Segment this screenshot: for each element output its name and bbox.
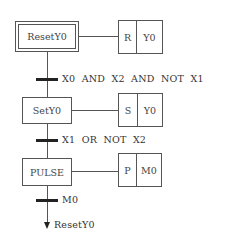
jump-arrow-icon — [44, 222, 50, 229]
action-variable: Y0 — [138, 94, 162, 126]
action-link — [79, 36, 118, 37]
step-resety0[interactable]: ResetY0 — [15, 21, 79, 52]
transition-bar[interactable] — [36, 199, 58, 202]
jump-target-label[interactable]: ResetY0 — [54, 219, 95, 230]
step-label: SetY0 — [33, 105, 61, 116]
action-qualifier: P — [119, 154, 137, 186]
transition-condition: X1 OR NOT X2 — [62, 134, 146, 145]
transition-condition: X0 AND X2 AND NOT X1 — [62, 73, 204, 84]
transition-bar[interactable] — [36, 78, 58, 81]
step-label: ResetY0 — [27, 31, 66, 42]
step-pulse[interactable]: PULSE — [22, 158, 72, 186]
action-block-sety0[interactable]: S Y0 — [118, 93, 163, 127]
action-qualifier: S — [119, 94, 138, 126]
action-variable: Y0 — [137, 21, 162, 53]
action-variable: M0 — [137, 154, 161, 186]
transition-condition: M0 — [62, 194, 78, 205]
link-line — [47, 185, 48, 223]
action-block-resety0[interactable]: R Y0 — [118, 20, 163, 54]
action-link — [72, 110, 118, 111]
action-block-pulse[interactable]: P M0 — [118, 153, 162, 187]
step-sety0[interactable]: SetY0 — [22, 97, 72, 124]
action-qualifier: R — [119, 21, 137, 53]
link-line — [47, 51, 48, 97]
transition-bar[interactable] — [36, 139, 58, 142]
step-label: PULSE — [30, 167, 64, 178]
action-link — [72, 171, 118, 172]
